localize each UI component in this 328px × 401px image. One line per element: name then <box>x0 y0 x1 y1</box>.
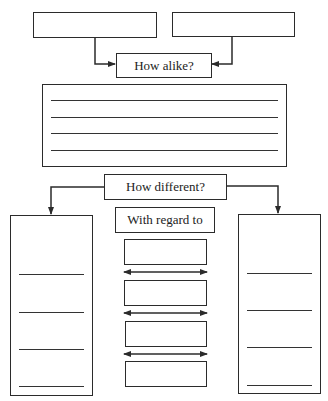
right-differences-line[interactable] <box>247 310 312 311</box>
left-differences-line[interactable] <box>19 349 84 350</box>
criteria-box-3[interactable] <box>125 321 207 347</box>
right-differences-line[interactable] <box>247 273 312 274</box>
with-regard-to-box: With regard to <box>115 207 215 233</box>
left-differences-box[interactable] <box>10 215 93 396</box>
left-differences-line[interactable] <box>19 274 84 275</box>
with-regard-to-label: With regard to <box>127 212 202 228</box>
similarities-line[interactable] <box>51 133 278 134</box>
right-differences-box[interactable] <box>238 214 321 394</box>
how-alike-box: How alike? <box>116 53 212 78</box>
left-differences-line[interactable] <box>19 312 84 313</box>
how-different-box: How different? <box>104 174 227 200</box>
connector-different-to-left <box>51 187 104 214</box>
criteria-box-1[interactable] <box>124 239 207 265</box>
right-differences-line[interactable] <box>247 347 312 348</box>
similarities-line[interactable] <box>51 150 278 151</box>
how-different-label: How different? <box>126 179 205 195</box>
similarities-line[interactable] <box>51 100 278 101</box>
connector-different-to-right <box>226 186 278 213</box>
similarities-line[interactable] <box>51 117 278 118</box>
criteria-box-4[interactable] <box>125 361 207 387</box>
criteria-box-2[interactable] <box>124 280 207 306</box>
connector-item-b-to-alike <box>212 36 232 64</box>
left-differences-line[interactable] <box>19 386 84 387</box>
item-a-box[interactable] <box>33 12 157 38</box>
connector-item-a-to-alike <box>95 37 115 64</box>
similarities-box[interactable] <box>42 84 287 167</box>
how-alike-label: How alike? <box>134 58 194 74</box>
item-b-box[interactable] <box>172 12 295 37</box>
right-differences-line[interactable] <box>247 385 312 386</box>
